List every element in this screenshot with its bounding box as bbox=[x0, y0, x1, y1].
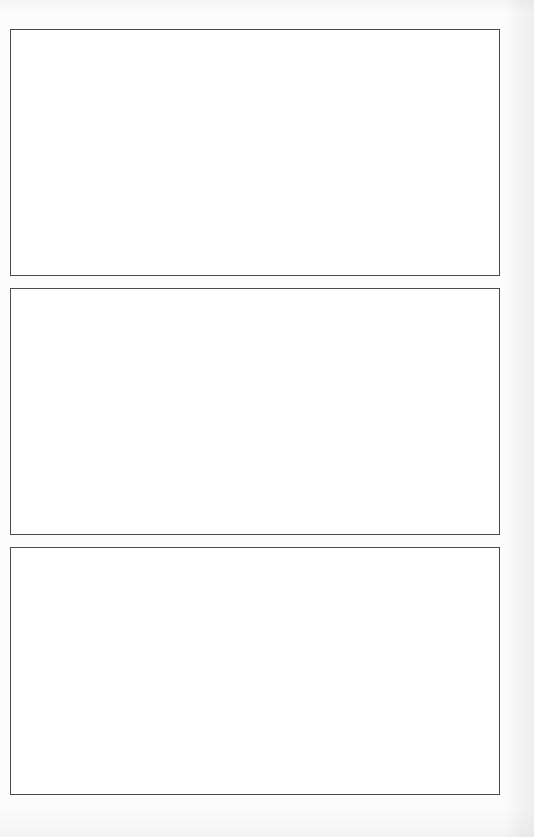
empty-frame-bottom bbox=[10, 547, 500, 795]
empty-frame-top bbox=[10, 29, 500, 276]
empty-frame-middle bbox=[10, 288, 500, 535]
